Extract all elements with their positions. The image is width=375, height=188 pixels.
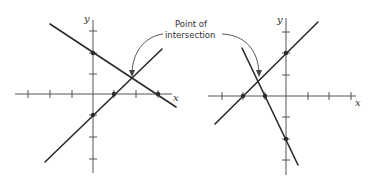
right-point-x-intercept-neg2 — [241, 94, 245, 98]
right-point-y-intercept-2 — [284, 51, 288, 55]
right-y-label: y — [276, 14, 283, 25]
left-point-y-intercept-2 — [91, 51, 95, 55]
right-arrowhead-icon — [256, 70, 262, 77]
right-graph: x y — [208, 14, 361, 175]
left-ascending-line — [45, 49, 162, 162]
left-point-y-intercept-neg1 — [91, 113, 95, 117]
left-graph: x y — [15, 13, 179, 173]
right-ascending-line — [215, 22, 318, 124]
right-x-label: x — [355, 97, 361, 108]
right-point-y-intercept-neg2 — [284, 137, 288, 141]
right-point-x-intercept-neg1 — [263, 94, 267, 98]
left-y-label: y — [83, 13, 90, 24]
annotation-line2: intersection — [165, 30, 215, 40]
right-steep-descending-line — [242, 48, 298, 165]
intersection-diagram: x y Point of intersection — [0, 0, 375, 188]
annotation: Point of intersection — [165, 19, 215, 40]
right-annotation-arrow — [222, 34, 259, 73]
annotation-line1: Point of — [175, 19, 208, 29]
left-x-label: x — [173, 92, 179, 103]
left-point-x-intercept-3 — [156, 92, 160, 96]
left-point-x-intercept-1 — [112, 92, 116, 96]
